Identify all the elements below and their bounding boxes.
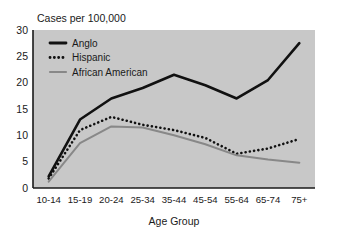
- y-axis-tick-label: 25: [16, 50, 28, 62]
- x-axis-category-labels: 10-1415-1920-2425-3435-4445-5455-6465-74…: [36, 194, 307, 205]
- y-axis-tick-label: 10: [16, 129, 28, 141]
- chart-title: Cases per 100,000: [37, 12, 126, 24]
- x-axis-category-label: 20-24: [99, 194, 124, 205]
- y-axis-tick-label: 15: [16, 103, 28, 115]
- x-axis-title: Age Group: [149, 215, 200, 227]
- legend-label: Hispanic: [72, 52, 110, 63]
- legend-label: Anglo: [72, 38, 98, 49]
- legend-label: African American: [72, 67, 148, 78]
- y-axis-tick-label: 20: [16, 76, 28, 88]
- y-axis-tick-labels: 051015202530: [16, 24, 28, 194]
- x-axis-category-label: 65-74: [256, 194, 281, 205]
- x-axis-category-label: 55-64: [224, 194, 249, 205]
- x-axis-category-label: 45-54: [193, 194, 218, 205]
- x-axis-category-label: 75+: [291, 194, 308, 205]
- x-axis-category-label: 15-19: [68, 194, 93, 205]
- y-axis-tick-label: 0: [22, 182, 28, 194]
- x-axis-category-label: 25-34: [130, 194, 155, 205]
- x-axis-category-label: 10-14: [36, 194, 61, 205]
- chart-container: Cases per 100,000 051015202530 10-1415-1…: [0, 0, 339, 231]
- x-axis-category-label: 35-44: [162, 194, 187, 205]
- y-axis-tick-label: 30: [16, 24, 28, 36]
- line-chart: Cases per 100,000 051015202530 10-1415-1…: [0, 0, 339, 231]
- y-axis-tick-label: 5: [22, 155, 28, 167]
